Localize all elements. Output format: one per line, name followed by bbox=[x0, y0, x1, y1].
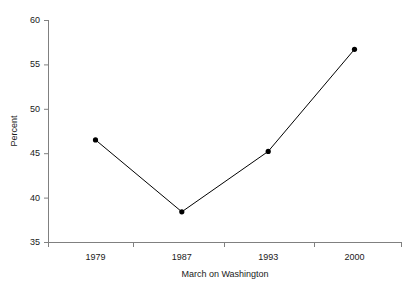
x-tick-label-1987: 1987 bbox=[172, 252, 192, 262]
data-point-1987 bbox=[179, 209, 184, 214]
data-point-2000 bbox=[352, 47, 357, 52]
x-tick-label-1993: 1993 bbox=[258, 252, 278, 262]
x-tick-label-1979: 1979 bbox=[85, 252, 105, 262]
x-tick-label-2000: 2000 bbox=[344, 252, 364, 262]
x-axis-title: March on Washington bbox=[181, 269, 268, 279]
line-chart: 60 55 50 45 40 35 1979 1987 1993 2000 Pe… bbox=[0, 0, 416, 293]
y-tick-label-45: 45 bbox=[20, 148, 40, 158]
y-tick-label-40: 40 bbox=[20, 193, 40, 203]
chart-plot-area bbox=[0, 0, 416, 293]
y-tick-label-35: 35 bbox=[20, 237, 40, 247]
y-tick-label-50: 50 bbox=[20, 104, 40, 114]
y-tick-label-60: 60 bbox=[20, 15, 40, 25]
y-axis-title: Percent bbox=[9, 115, 19, 146]
y-tick-label-55: 55 bbox=[20, 59, 40, 69]
data-point-1979 bbox=[93, 137, 98, 142]
y-axis-ticks bbox=[44, 21, 48, 243]
data-point-1993 bbox=[266, 149, 271, 154]
data-series-line bbox=[96, 49, 355, 212]
data-point-markers bbox=[93, 47, 357, 215]
